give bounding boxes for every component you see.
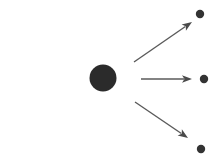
scattered-particle-top — [196, 10, 204, 18]
scattered-particle-middle — [200, 75, 208, 83]
scattering-diagram — [0, 0, 224, 161]
target-nucleus — [90, 65, 117, 92]
scattered-particle-bottom — [197, 145, 205, 153]
diagram-canvas — [0, 0, 224, 161]
